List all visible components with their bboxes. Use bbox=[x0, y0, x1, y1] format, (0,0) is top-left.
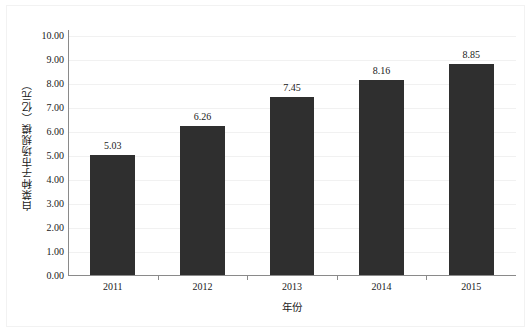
x-tick-label: 2011 bbox=[68, 282, 158, 292]
bar-group[interactable]: 5.03 bbox=[90, 155, 135, 276]
bar-group[interactable]: 8.85 bbox=[449, 64, 494, 276]
x-axis-tick bbox=[426, 276, 427, 280]
bar-rect[interactable] bbox=[359, 80, 404, 276]
bar-value-label: 7.45 bbox=[270, 83, 315, 93]
bar-value-label: 6.26 bbox=[180, 112, 225, 122]
y-tick-label: 7.00 bbox=[30, 103, 64, 113]
x-axis-tick bbox=[158, 276, 159, 280]
bar-rect[interactable] bbox=[270, 97, 315, 276]
bar-rect[interactable] bbox=[90, 155, 135, 276]
x-axis-title: 年份 bbox=[68, 303, 516, 314]
y-tick-label: 4.00 bbox=[30, 175, 64, 185]
y-tick-label: 3.00 bbox=[30, 199, 64, 209]
y-tick-label: 6.00 bbox=[30, 127, 64, 137]
y-axis-tick-labels: 10.00 9.00 8.00 7.00 6.00 5.00 4.00 3.00… bbox=[30, 36, 64, 276]
x-axis-tick bbox=[337, 276, 338, 280]
bar-rect[interactable] bbox=[180, 126, 225, 276]
x-axis-title-text: 年份 bbox=[282, 302, 302, 313]
bar-value-label: 8.16 bbox=[359, 66, 404, 76]
y-tick-label: 8.00 bbox=[30, 79, 64, 89]
y-tick-label: 9.00 bbox=[30, 55, 64, 65]
bar-group[interactable]: 7.45 bbox=[270, 97, 315, 276]
y-tick-label: 10.00 bbox=[30, 31, 64, 41]
x-axis-tick-labels: 20112012201320142015 bbox=[68, 282, 516, 298]
x-tick-label: 2012 bbox=[158, 282, 248, 292]
y-tick-label: 0.00 bbox=[30, 271, 64, 281]
y-tick-label: 5.00 bbox=[30, 151, 64, 161]
bar-chart-figure: 白菜种子市场规模（亿元） 10.00 9.00 8.00 7.00 6.00 5… bbox=[0, 0, 531, 333]
x-tick-label: 2015 bbox=[426, 282, 516, 292]
bar-rect[interactable] bbox=[449, 64, 494, 276]
bars-layer: 5.036.267.458.168.85 bbox=[68, 36, 516, 276]
x-axis-ticks bbox=[68, 276, 516, 280]
bar-value-label: 5.03 bbox=[90, 141, 135, 151]
x-tick-label: 2013 bbox=[247, 282, 337, 292]
x-tick-label: 2014 bbox=[337, 282, 427, 292]
plot-area: 5.036.267.458.168.85 bbox=[68, 36, 516, 276]
x-axis-tick bbox=[247, 276, 248, 280]
bar-value-label: 8.85 bbox=[449, 50, 494, 60]
y-tick-label: 1.00 bbox=[30, 247, 64, 257]
bar-group[interactable]: 8.16 bbox=[359, 80, 404, 276]
y-tick-label: 2.00 bbox=[30, 223, 64, 233]
bar-group[interactable]: 6.26 bbox=[180, 126, 225, 276]
